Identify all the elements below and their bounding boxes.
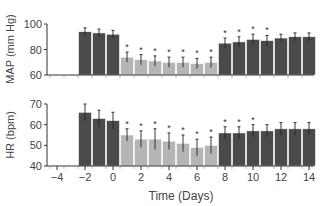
x-tick-label: 14 <box>303 171 315 183</box>
significance-star: * <box>237 117 241 127</box>
y-axis-title: MAP (mm Hg) <box>4 14 16 83</box>
significance-star: * <box>209 127 213 137</box>
significance-star: * <box>181 47 185 57</box>
x-tick-label: 10 <box>247 171 259 183</box>
y-tick-label: 80 <box>30 44 42 56</box>
significance-star: * <box>251 115 255 125</box>
y-axis-title: HR (bpm) <box>4 111 16 159</box>
x-tick-label: 12 <box>275 171 287 183</box>
x-axis-title: Time (Days) <box>149 189 214 203</box>
significance-star: * <box>139 45 143 55</box>
significance-star: * <box>153 119 157 129</box>
map-bar <box>289 37 302 75</box>
significance-star: * <box>195 48 199 58</box>
map-panel: ***********6080100MAP (mm Hg) <box>4 14 316 83</box>
significance-star: * <box>237 27 241 37</box>
y-tick-label: 60 <box>30 69 42 81</box>
significance-star: * <box>223 117 227 127</box>
x-tick-label: 8 <box>222 171 228 183</box>
significance-star: * <box>125 42 129 52</box>
y-tick-label: 50 <box>30 139 42 151</box>
map-bar <box>303 37 316 75</box>
map-bar <box>79 32 92 75</box>
significance-star: * <box>153 46 157 56</box>
map-bar <box>93 33 106 75</box>
significance-star: * <box>265 25 269 35</box>
significance-star: * <box>139 121 143 131</box>
bar-chart: ***********6080100MAP (mm Hg) **********… <box>0 0 321 206</box>
significance-star: * <box>195 129 199 139</box>
map-bar <box>275 38 288 75</box>
x-tick-label: −4 <box>51 171 64 183</box>
significance-star: * <box>223 28 227 38</box>
significance-star: * <box>167 47 171 57</box>
y-tick-label: 70 <box>30 98 42 110</box>
x-tick-label: −2 <box>79 171 92 183</box>
x-tick-label: 0 <box>110 171 116 183</box>
x-tick-label: 2 <box>138 171 144 183</box>
significance-star: * <box>209 47 213 57</box>
x-tick-label: 4 <box>166 171 172 183</box>
map-bar <box>247 39 260 75</box>
hr-panel: **********40506070HR (bpm) <box>4 98 316 172</box>
significance-star: * <box>251 24 255 34</box>
x-tick-label: 6 <box>194 171 200 183</box>
map-bar <box>261 41 274 75</box>
significance-star: * <box>125 119 129 129</box>
y-tick-label: 60 <box>30 119 42 131</box>
significance-star: * <box>181 125 185 135</box>
y-tick-label: 40 <box>30 160 42 172</box>
map-bar <box>107 34 120 75</box>
y-tick-label: 100 <box>24 18 42 30</box>
x-axis: −4−202468101214 <box>51 166 315 183</box>
significance-star: * <box>167 123 171 133</box>
